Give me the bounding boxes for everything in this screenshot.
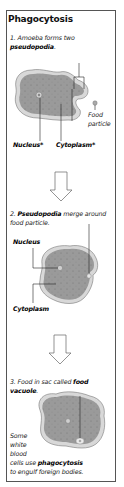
- food-particle-label: Food particle: [88, 110, 111, 128]
- cytoplasm-label-2: Cytoplasm: [13, 305, 49, 312]
- nucleus-label-1: Nucleus*: [13, 141, 43, 148]
- step-3-text: 3. Food in sac called food vacuole.: [10, 377, 114, 395]
- down-arrow-2: [49, 335, 71, 364]
- nucleus-label-2: Nucleus: [13, 238, 40, 245]
- down-arrow-1: [50, 172, 72, 201]
- step-3-note: Some white blood cells use phagocytosis …: [10, 431, 114, 476]
- term-phagocytosis: phagocytosis: [38, 459, 83, 466]
- step-2-text: 2. Pseudopodia merge around food particl…: [10, 209, 110, 227]
- amoeba-step-2: [33, 224, 98, 304]
- term-pseudopodia-2: Pseudopodia: [18, 210, 62, 217]
- amoeba-step-1: [15, 63, 97, 141]
- cytoplasm-label-1: Cytoplasm*: [56, 141, 95, 148]
